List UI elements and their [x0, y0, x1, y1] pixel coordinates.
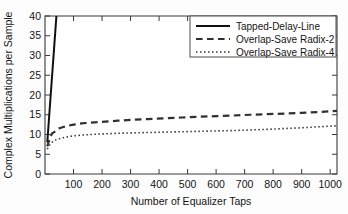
x-tick-label: 1000	[318, 178, 342, 190]
legend-label: Overlap-Save Radix-2	[236, 34, 335, 45]
chart-figure: 0510152025303540 10020030040050060070080…	[0, 0, 348, 214]
x-tick-label: 400	[150, 178, 168, 190]
y-tick-label: 0	[35, 168, 41, 180]
y-axis-title: Complex Multiplications per Sample	[2, 11, 14, 178]
x-tick-labels: 1002003004005006007008009001000	[65, 178, 342, 190]
y-tick-label: 10	[29, 128, 41, 140]
x-tick-label: 200	[93, 178, 111, 190]
y-tick-label: 30	[29, 49, 41, 61]
legend-label: Tapped-Delay-Line	[236, 21, 320, 32]
y-tick-label: 5	[35, 148, 41, 160]
x-tick-label: 800	[264, 178, 282, 190]
legend-label: Overlap-Save Radix-4	[236, 47, 335, 58]
x-tick-label: 500	[179, 178, 197, 190]
x-tick-label: 300	[122, 178, 140, 190]
y-tick-label: 25	[29, 69, 41, 81]
y-tick-label: 15	[29, 108, 41, 120]
x-axis-title: Number of Equalizer Taps	[131, 195, 252, 207]
x-tick-label: 600	[207, 178, 225, 190]
chart-legend[interactable]: Tapped-Delay-LineOverlap-Save Radix-2Ove…	[190, 16, 336, 58]
y-tick-label: 40	[29, 10, 41, 22]
plot-canvas: 0510152025303540 10020030040050060070080…	[0, 0, 348, 214]
x-tick-label: 100	[65, 178, 83, 190]
x-tick-label: 900	[293, 178, 311, 190]
x-tick-label: 700	[236, 178, 254, 190]
y-tick-labels: 0510152025303540	[29, 10, 41, 180]
y-tick-label: 35	[29, 29, 41, 41]
y-tick-label: 20	[29, 89, 41, 101]
